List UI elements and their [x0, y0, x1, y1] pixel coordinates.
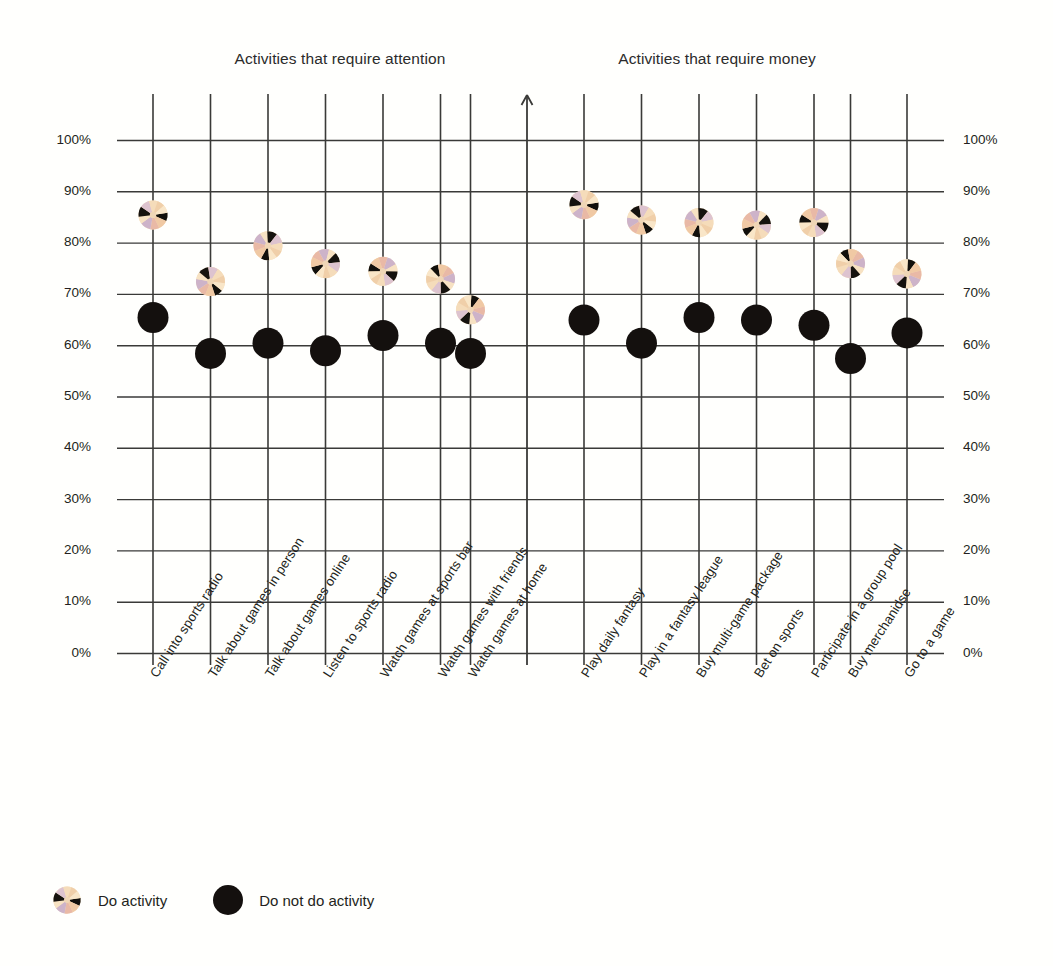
y-axis-tick-label-right: 60% — [963, 337, 990, 352]
data-point-do-not-do-activity — [455, 338, 486, 369]
y-axis-tick-label-right: 80% — [963, 234, 990, 249]
data-points-group — [138, 190, 925, 374]
y-axis-tick-label-right: 20% — [963, 542, 990, 557]
data-point-do-activity — [569, 190, 598, 219]
y-axis-tick-label-left: 40% — [64, 439, 91, 454]
y-axis-tick-label-right: 0% — [963, 645, 983, 660]
data-point-do-activity — [797, 206, 830, 239]
data-point-do-not-do-activity — [368, 320, 399, 351]
y-axis-tick-label-right: 10% — [963, 593, 990, 608]
data-point-do-activity — [621, 200, 662, 241]
data-point-do-activity — [420, 259, 460, 300]
pinwheel-marker-icon — [52, 885, 82, 915]
y-axis-tick-label-right: 70% — [963, 285, 990, 300]
data-point-do-not-do-activity — [425, 328, 456, 359]
y-axis-tick-label-right: 90% — [963, 183, 990, 198]
y-axis-tick-label-left: 30% — [64, 491, 91, 506]
data-point-do-not-do-activity — [626, 328, 657, 359]
data-point-do-activity — [252, 230, 283, 261]
data-point-do-activity — [305, 243, 346, 284]
data-point-do-activity — [138, 200, 167, 229]
y-axis-tick-label-left: 90% — [64, 183, 91, 198]
data-point-do-not-do-activity — [569, 305, 600, 336]
data-point-do-activity — [830, 243, 870, 284]
chart-legend: Do activity Do not do activity — [52, 880, 374, 920]
legend-label-do-activity: Do activity — [98, 892, 167, 909]
data-point-do-not-do-activity — [310, 335, 341, 366]
plot-area — [0, 0, 1053, 966]
y-axis-tick-label-right: 30% — [963, 491, 990, 506]
y-axis-tick-label-right: 40% — [963, 439, 990, 454]
legend-label-do-not-do-activity: Do not do activity — [259, 892, 374, 909]
data-point-do-not-do-activity — [892, 317, 923, 348]
data-point-do-not-do-activity — [195, 338, 226, 369]
y-axis-tick-label-left: 70% — [64, 285, 91, 300]
y-axis-tick-label-left: 20% — [64, 542, 91, 557]
y-axis-tick-label-right: 100% — [963, 132, 998, 147]
filled-circle-marker-icon — [213, 885, 243, 915]
chart-container: Activities that require attention Activi… — [0, 0, 1053, 966]
data-point-do-activity — [190, 261, 231, 302]
y-axis-tick-label-left: 0% — [71, 645, 91, 660]
data-point-do-activity — [890, 257, 924, 292]
y-axis-tick-label-left: 80% — [64, 234, 91, 249]
y-axis-tick-label-left: 50% — [64, 388, 91, 403]
legend-entry-do-activity: Do activity — [52, 885, 167, 915]
y-axis-tick-label-left: 60% — [64, 337, 91, 352]
legend-entry-do-not-do-activity: Do not do activity — [213, 885, 374, 915]
data-point-do-activity — [683, 207, 714, 238]
data-point-do-not-do-activity — [741, 305, 772, 336]
data-point-do-not-do-activity — [253, 328, 284, 359]
y-axis-tick-label-left: 10% — [64, 593, 91, 608]
y-axis-tick-label-right: 50% — [963, 388, 990, 403]
data-point-do-not-do-activity — [799, 310, 830, 341]
data-point-do-not-do-activity — [684, 302, 715, 333]
y-axis-tick-label-left: 100% — [56, 132, 91, 147]
data-point-do-activity — [453, 292, 487, 327]
data-point-do-activity — [736, 205, 777, 246]
data-point-do-not-do-activity — [835, 343, 866, 374]
data-point-do-activity — [366, 255, 399, 288]
data-point-do-not-do-activity — [138, 302, 169, 333]
